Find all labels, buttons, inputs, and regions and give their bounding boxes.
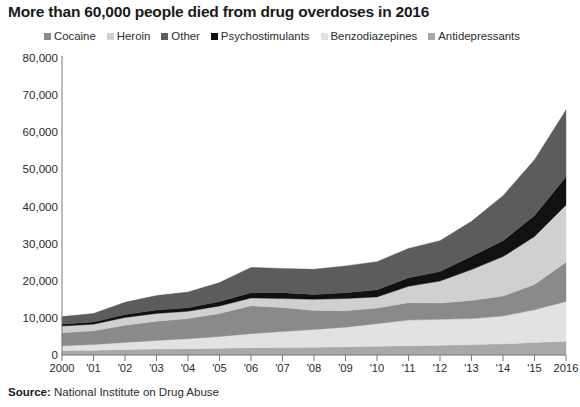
x-tick-label: '15 (518, 362, 552, 375)
source-text: National Institute on Drug Abuse (51, 386, 219, 398)
chart-figure: More than 60,000 people died from drug o… (0, 0, 580, 407)
x-tick-label: '10 (360, 362, 394, 375)
y-tick-label: 0 (0, 349, 58, 361)
x-tick-label: '03 (140, 362, 174, 375)
y-tick-label: 50,000 (0, 163, 58, 175)
x-tick-label: 2000 (45, 362, 79, 375)
source-keyword: Source: (8, 386, 51, 398)
source-note: Source: National Institute on Drug Abuse (8, 386, 219, 398)
x-tick-label: '01 (77, 362, 111, 375)
y-tick-label: 70,000 (0, 89, 58, 101)
x-tick-label: '13 (455, 362, 489, 375)
y-tick-label: 10,000 (0, 312, 58, 324)
x-axis-labels: 2000'01'02'03'04'05'06'07'08'09'10'11'12… (0, 362, 580, 380)
x-tick-label: '08 (297, 362, 331, 375)
plot-area (0, 0, 580, 380)
x-tick-label: '07 (266, 362, 300, 375)
x-tick-label: '06 (234, 362, 268, 375)
y-tick-label: 40,000 (0, 201, 58, 213)
stacked-area-plot (0, 0, 580, 380)
x-tick-label: '12 (423, 362, 457, 375)
x-tick-label: 2016 (549, 362, 580, 375)
y-tick-label: 20,000 (0, 275, 58, 287)
x-tick-label: '11 (392, 362, 426, 375)
y-tick-label: 30,000 (0, 238, 58, 250)
x-tick-label: '09 (329, 362, 363, 375)
y-axis-labels: 80,00070,00060,00050,00040,00030,00020,0… (0, 0, 58, 380)
x-tick-label: '04 (171, 362, 205, 375)
x-tick-label: '02 (108, 362, 142, 375)
x-tick-label: '05 (203, 362, 237, 375)
x-tick-label: '14 (486, 362, 520, 375)
y-tick-label: 60,000 (0, 126, 58, 138)
y-tick-label: 80,000 (0, 52, 58, 64)
